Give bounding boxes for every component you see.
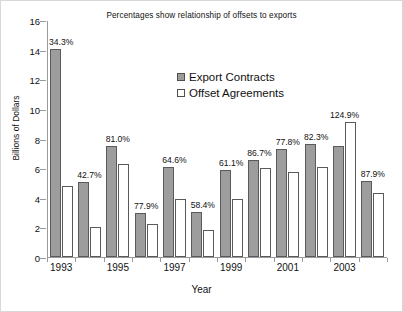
x-tick-label: 1995 bbox=[107, 262, 129, 273]
bar-offset-agreements bbox=[203, 230, 214, 257]
y-tick-label: 6 bbox=[0, 164, 40, 175]
x-tick-label: 1999 bbox=[220, 262, 242, 273]
legend-label-export: Export Contracts bbox=[189, 71, 275, 83]
bar-export-contracts bbox=[305, 144, 316, 257]
x-tick bbox=[75, 258, 76, 262]
bar-export-contracts bbox=[50, 49, 61, 257]
y-tick-label: 16 bbox=[0, 16, 40, 27]
x-axis-title: Year bbox=[1, 284, 402, 295]
bar-export-contracts bbox=[135, 213, 146, 257]
percentage-label: 86.7% bbox=[247, 148, 271, 158]
legend-item-export-contracts: Export Contracts bbox=[177, 71, 284, 83]
bar-offset-agreements bbox=[373, 193, 384, 257]
x-tick bbox=[189, 258, 190, 262]
bar-group bbox=[160, 167, 188, 257]
percentage-label: 58.4% bbox=[191, 200, 215, 210]
x-tick-label: 2003 bbox=[333, 262, 355, 273]
bar-export-contracts bbox=[220, 170, 231, 257]
bar-group bbox=[104, 146, 132, 257]
bar-group bbox=[274, 149, 302, 257]
x-tick bbox=[217, 258, 218, 262]
x-tick bbox=[359, 258, 360, 262]
plot-area: 0246810121416 34.3%42.7%81.0%77.9%64.6%5… bbox=[47, 21, 387, 258]
bar-export-contracts bbox=[276, 149, 287, 257]
y-tick bbox=[40, 228, 46, 229]
bar-offset-agreements bbox=[232, 199, 243, 257]
bar-export-contracts bbox=[333, 146, 344, 257]
y-tick bbox=[40, 258, 46, 259]
y-tick-label: 2 bbox=[0, 223, 40, 234]
bar-offset-agreements bbox=[317, 167, 328, 257]
percentage-label: 61.1% bbox=[219, 158, 243, 168]
bar-export-contracts bbox=[78, 182, 89, 257]
bar-group bbox=[302, 144, 330, 257]
x-tick bbox=[104, 258, 105, 262]
percentage-label: 82.3% bbox=[304, 132, 328, 142]
bar-offset-agreements bbox=[62, 186, 73, 257]
y-tick-label: 4 bbox=[0, 193, 40, 204]
bar-offset-agreements bbox=[345, 122, 356, 257]
legend-swatch-icon-offset bbox=[177, 89, 185, 97]
x-tick bbox=[302, 258, 303, 262]
y-tick-label: 14 bbox=[0, 45, 40, 56]
bar-export-contracts bbox=[361, 181, 372, 257]
bar-offset-agreements bbox=[260, 168, 271, 257]
bar-group bbox=[75, 182, 103, 257]
bar-group bbox=[132, 213, 160, 257]
bar-group bbox=[217, 170, 245, 257]
bar-group bbox=[330, 122, 358, 257]
percentage-label: 42.7% bbox=[77, 170, 101, 180]
y-tick bbox=[40, 80, 46, 81]
x-tick bbox=[245, 258, 246, 262]
y-tick bbox=[40, 51, 46, 52]
x-tick-label: 1993 bbox=[50, 262, 72, 273]
bar-export-contracts bbox=[248, 160, 259, 257]
bar-offset-agreements bbox=[175, 199, 186, 258]
percentage-label: 77.8% bbox=[276, 137, 300, 147]
x-tick bbox=[274, 258, 275, 262]
y-tick-label: 12 bbox=[0, 75, 40, 86]
bar-export-contracts bbox=[106, 146, 117, 257]
bar-offset-agreements bbox=[147, 224, 158, 257]
x-tick-label: 2001 bbox=[277, 262, 299, 273]
percentage-label: 77.9% bbox=[134, 201, 158, 211]
y-tick bbox=[40, 199, 46, 200]
bar-chart: Percentages show relationship of offsets… bbox=[0, 0, 403, 312]
legend-item-offset-agreements: Offset Agreements bbox=[177, 87, 284, 99]
x-tick-label: 1997 bbox=[163, 262, 185, 273]
chart-title: Percentages show relationship of offsets… bbox=[1, 11, 402, 20]
bar-group bbox=[189, 212, 217, 257]
x-tick bbox=[47, 258, 48, 262]
bar-export-contracts bbox=[191, 212, 202, 257]
x-tick bbox=[160, 258, 161, 262]
y-tick-label: 0 bbox=[0, 253, 40, 264]
bar-export-contracts bbox=[163, 167, 174, 257]
x-tick bbox=[330, 258, 331, 262]
x-tick bbox=[387, 258, 388, 262]
y-tick bbox=[40, 169, 46, 170]
percentage-label: 64.6% bbox=[162, 155, 186, 165]
y-tick bbox=[40, 110, 46, 111]
bar-group bbox=[245, 160, 273, 257]
y-tick bbox=[40, 21, 46, 22]
y-tick-label: 8 bbox=[0, 134, 40, 145]
y-tick-label: 10 bbox=[0, 104, 40, 115]
x-tick bbox=[132, 258, 133, 262]
percentage-label: 81.0% bbox=[106, 134, 130, 144]
legend-label-offset: Offset Agreements bbox=[189, 87, 284, 99]
legend: Export Contracts Offset Agreements bbox=[177, 71, 284, 99]
y-tick bbox=[40, 140, 46, 141]
percentage-label: 34.3% bbox=[49, 37, 73, 47]
bar-offset-agreements bbox=[288, 172, 299, 257]
y-axis-title: Billions of Dollars bbox=[11, 88, 21, 168]
percentage-label: 124.9% bbox=[330, 110, 359, 120]
bar-group bbox=[359, 181, 387, 257]
bar-group bbox=[47, 49, 75, 257]
percentage-label: 87.9% bbox=[361, 169, 385, 179]
legend-swatch-icon-export bbox=[177, 73, 185, 81]
bar-offset-agreements bbox=[118, 164, 129, 257]
bar-offset-agreements bbox=[90, 227, 101, 257]
